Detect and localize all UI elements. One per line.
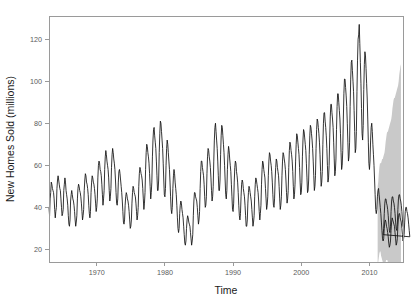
data-series-group bbox=[49, 24, 410, 247]
y-tick-label: 20 bbox=[34, 245, 42, 254]
plot-svg: 2040608010012019701980199020002010TimeNe… bbox=[0, 0, 414, 304]
plot-border bbox=[50, 17, 404, 263]
chart-figure: 2040608010012019701980199020002010TimeNe… bbox=[0, 0, 414, 304]
y-tick-label: 120 bbox=[30, 35, 42, 44]
y-axis-title: New Homes Sold (millions) bbox=[4, 76, 16, 202]
x-tick-label: 1970 bbox=[89, 268, 105, 277]
y-tick-label: 80 bbox=[34, 119, 42, 128]
x-axis-title: Time bbox=[215, 284, 238, 296]
x-tick-label: 1980 bbox=[157, 268, 173, 277]
x-tick-label: 2010 bbox=[361, 268, 377, 277]
y-tick-label: 40 bbox=[34, 203, 42, 212]
plot-box bbox=[50, 17, 404, 263]
y-tick-label: 100 bbox=[30, 77, 42, 86]
observed-and-forecast-line bbox=[49, 24, 410, 247]
x-tick-label: 2000 bbox=[293, 268, 309, 277]
y-tick-label: 60 bbox=[34, 161, 42, 170]
x-tick-label: 1990 bbox=[225, 268, 241, 277]
axis-ticks-group: 2040608010012019701980199020002010TimeNe… bbox=[4, 35, 377, 296]
